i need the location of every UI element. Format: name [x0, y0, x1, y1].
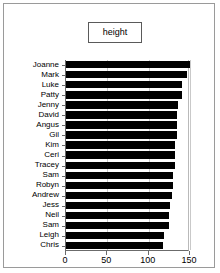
category-label: Andrew [32, 191, 59, 199]
bar [66, 151, 175, 158]
bar [66, 192, 172, 199]
plot-area [65, 60, 189, 251]
bar [66, 232, 164, 239]
bar-row [66, 80, 190, 90]
category-label: Neil [45, 211, 59, 219]
category-label: Mark [41, 71, 59, 79]
bar [66, 101, 178, 108]
bar-row [66, 221, 190, 231]
category-label: Jenny [38, 101, 59, 109]
bar [66, 91, 182, 98]
bar-row [66, 140, 190, 150]
gridline [190, 60, 191, 250]
bar [66, 71, 187, 78]
bar-row [66, 191, 190, 201]
x-axis-tick-label: 0 [62, 256, 67, 265]
category-label: Kim [45, 141, 59, 149]
category-label: Patty [41, 91, 59, 99]
bar-row [66, 231, 190, 241]
bar-row [66, 171, 190, 181]
bar-row [66, 201, 190, 211]
category-label: Angus [36, 121, 59, 129]
category-label: Chris [40, 241, 59, 249]
bar-row [66, 70, 190, 80]
bar [66, 111, 177, 118]
x-axis-tick-label: 100 [140, 256, 155, 265]
bar-row [66, 241, 190, 251]
bar [66, 141, 175, 148]
category-label: Gil [49, 131, 59, 139]
bar-row [66, 90, 190, 100]
category-axis-labels: JoanneMarkLukePattyJennyDavidAngusGilKim… [8, 60, 62, 251]
bar [66, 81, 182, 88]
bar [66, 212, 169, 219]
bar-series-height [66, 60, 188, 250]
bar [66, 162, 175, 169]
category-label: Sam [43, 171, 59, 179]
category-label: Sam [43, 221, 59, 229]
bar [66, 172, 173, 179]
x-axis-tick-label: 150 [181, 256, 196, 265]
category-label: Leigh [39, 231, 59, 239]
bar-row [66, 150, 190, 160]
bar-row [66, 100, 190, 110]
bar [66, 121, 177, 128]
bar-row [66, 110, 190, 120]
bar [66, 182, 173, 189]
chart-legend-box: height [88, 22, 142, 43]
bar-row [66, 161, 190, 171]
bar-row [66, 60, 190, 70]
bar [66, 222, 169, 229]
category-label: Robyn [36, 181, 59, 189]
bar-row [66, 211, 190, 221]
category-label: David [39, 111, 59, 119]
category-label: Luke [42, 81, 59, 89]
bar [66, 202, 170, 209]
bar [66, 61, 190, 68]
bar [66, 131, 177, 138]
chart-frame: height JoanneMarkLukePattyJennyDavidAngu… [3, 3, 215, 268]
bar [66, 242, 163, 249]
bar-row [66, 120, 190, 130]
x-axis-tick-label: 50 [101, 256, 111, 265]
bar-row [66, 181, 190, 191]
category-label: Jess [43, 201, 59, 209]
category-label: Joanne [33, 61, 59, 69]
bar-row [66, 130, 190, 140]
legend-label-height: height [103, 28, 128, 37]
category-label: Tracey [35, 161, 59, 169]
category-label: Ceri [44, 151, 59, 159]
x-axis: 050100150 [65, 251, 189, 273]
